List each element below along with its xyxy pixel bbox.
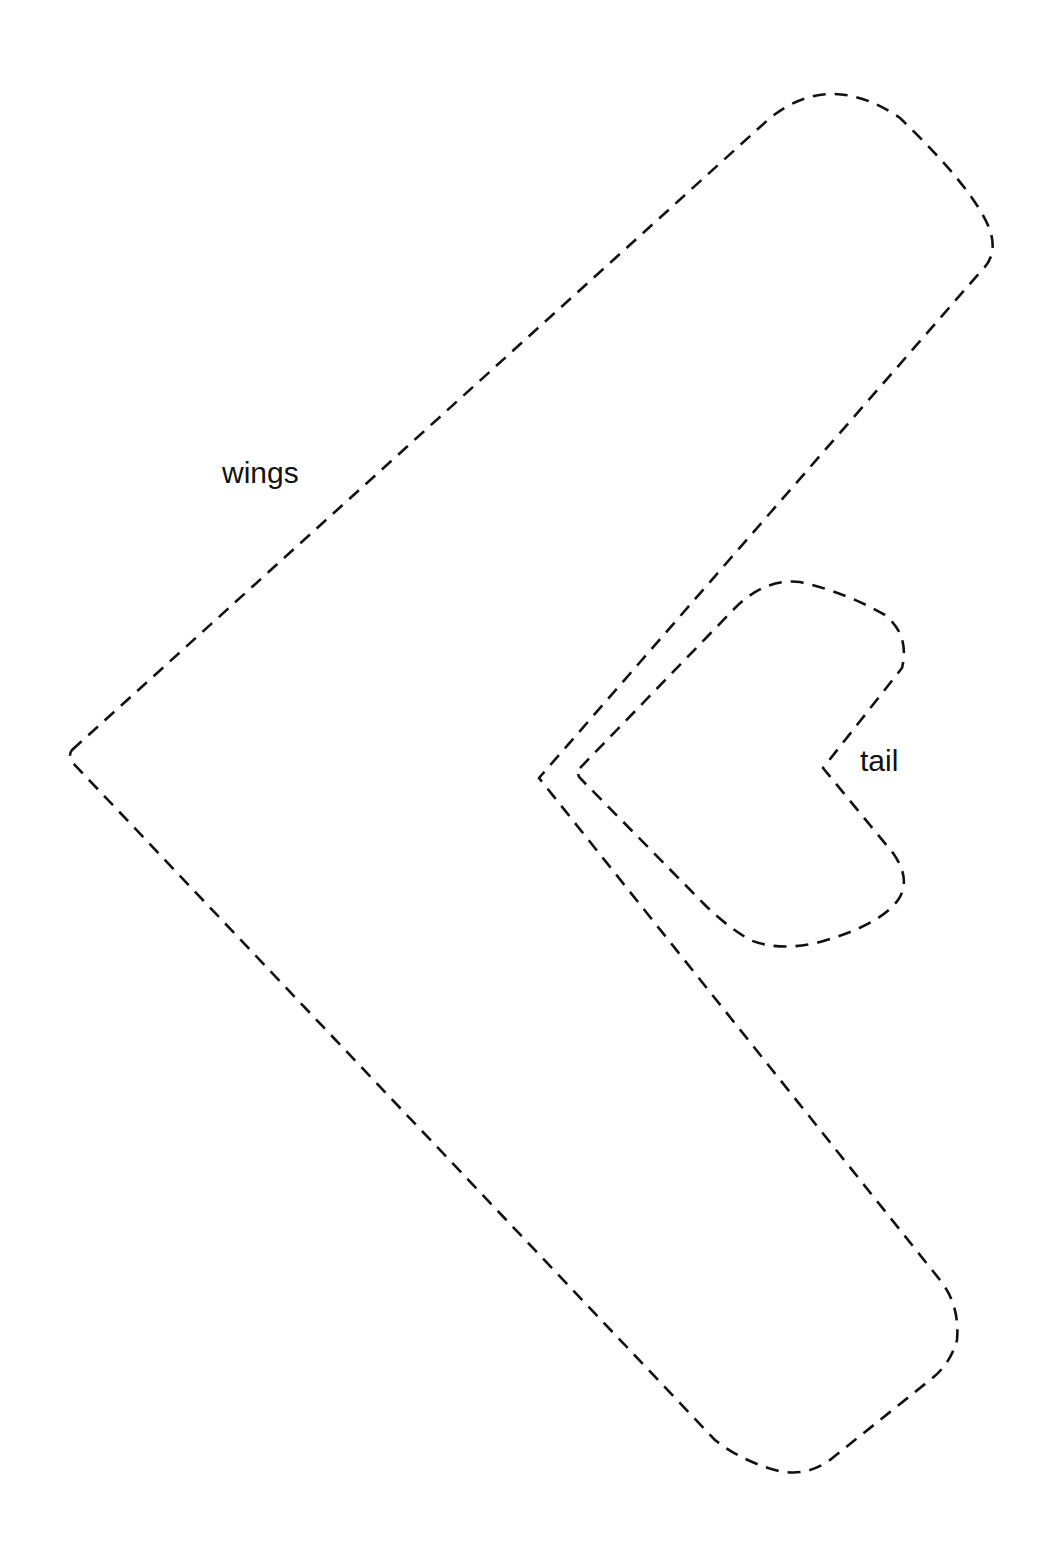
template-canvas: wings tail [0,0,1044,1542]
tail-label: tail [860,746,898,776]
wings-label: wings [222,458,299,488]
wings-outline [70,94,993,1472]
tail-outline [578,582,904,947]
